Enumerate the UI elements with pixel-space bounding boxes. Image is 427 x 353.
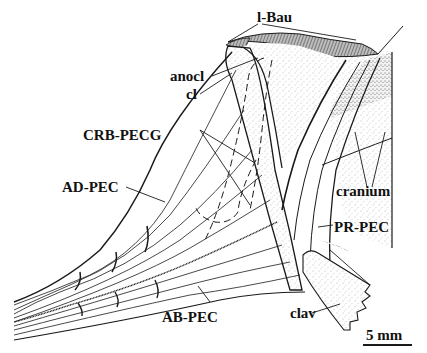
fin-ray-segments xyxy=(75,226,158,316)
label-clav: clav xyxy=(290,306,316,321)
anatomical-drawing xyxy=(0,0,427,353)
label-crb-pecg: CRB-PECG xyxy=(83,128,161,143)
label-ab-pec: AB-PEC xyxy=(162,310,218,325)
label-l-bau: l-Bau xyxy=(257,10,292,25)
label-pr-pec: PR-PEC xyxy=(334,220,389,235)
label-ad-pec: AD-PEC xyxy=(62,180,119,195)
label-anocl: anocl xyxy=(170,69,204,84)
label-cl: cl xyxy=(186,87,197,102)
label-cranium: cranium xyxy=(336,184,390,199)
scale-bar-label: 5 mm xyxy=(366,328,402,343)
